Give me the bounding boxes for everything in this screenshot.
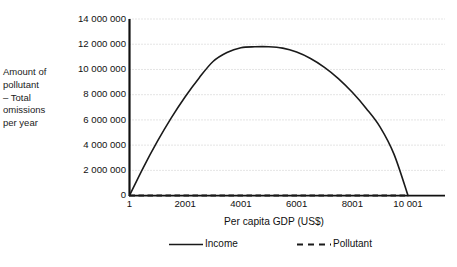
legend-label-pollutant: Pollutant: [333, 238, 372, 250]
legend-item-income: Income: [169, 238, 238, 250]
legend-item-pollutant: Pollutant: [297, 238, 372, 250]
x-axis-tick-label: 8001: [342, 198, 363, 209]
x-axis-tick-label: 1: [127, 198, 132, 209]
chart-figure: Amount of pollutant – Total omissions pe…: [0, 0, 457, 267]
x-axis-tick-label: 4001: [230, 198, 251, 209]
x-axis-title: Per capita GDP (US$): [129, 216, 419, 227]
x-axis-tick-label: 10 001: [393, 198, 422, 209]
x-axis-tick-label: 6001: [286, 198, 307, 209]
x-axis-tick-label: 2001: [175, 198, 196, 209]
legend-label-income: Income: [205, 238, 238, 250]
chart-legend: Income Pollutant: [129, 238, 429, 258]
legend-swatch-solid-icon: [169, 240, 203, 249]
legend-swatch-dashed-icon: [297, 240, 331, 249]
